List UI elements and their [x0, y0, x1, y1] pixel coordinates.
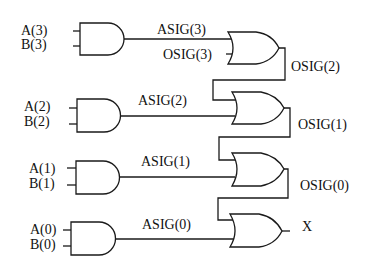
label-b1: B(1) [29, 176, 55, 192]
label-asig1: ASIG(1) [141, 154, 190, 170]
label-osig2: OSIG(2) [291, 59, 340, 75]
and-gate-1 [67, 161, 120, 194]
label-asig0: ASIG(0) [142, 217, 191, 233]
or-gate-1 [232, 153, 284, 186]
label-osig3: OSIG(3) [163, 47, 212, 63]
label-asig3: ASIG(3) [157, 22, 206, 38]
label-b0: B(0) [30, 237, 56, 253]
label-osig0: OSIG(0) [300, 178, 349, 194]
label-b3: B(3) [21, 37, 47, 53]
label-asig2: ASIG(2) [138, 93, 187, 109]
label-output-x: X [302, 219, 312, 234]
and-gate-2 [69, 99, 121, 132]
and-gate-3 [73, 23, 124, 55]
or-gate-0 [230, 214, 282, 247]
logic-circuit-diagram: A(3) B(3) ASIG(3) OSIG(3) OSIG(2) A(2) B… [0, 0, 376, 267]
and-gate-0 [63, 222, 116, 255]
or-gate-2 [232, 92, 284, 124]
label-b2: B(2) [24, 114, 50, 130]
label-a1: A(1) [29, 161, 56, 177]
label-osig1: OSIG(1) [298, 117, 347, 133]
or-gate-3 [228, 32, 279, 64]
label-a0: A(0) [30, 222, 57, 238]
label-a2: A(2) [24, 99, 51, 115]
